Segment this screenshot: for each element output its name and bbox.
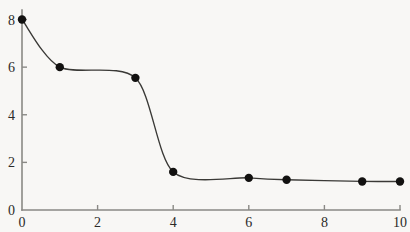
y-tick-label: 0 [8, 203, 15, 218]
data-point [169, 168, 177, 176]
x-tick-label: 0 [19, 215, 26, 230]
x-tick-label: 2 [94, 215, 101, 230]
data-point [18, 15, 26, 23]
line-chart: 02468 0246810 [0, 0, 410, 232]
data-point [131, 74, 139, 82]
y-tick-label: 6 [8, 60, 15, 75]
x-tick-label: 6 [245, 215, 252, 230]
y-tick-label: 8 [8, 13, 15, 28]
x-tick-label: 4 [170, 215, 177, 230]
chart-background [0, 0, 410, 232]
data-point [56, 63, 64, 71]
chart-container: 02468 0246810 [0, 0, 410, 232]
data-point [245, 174, 253, 182]
data-point [282, 176, 290, 184]
data-point [358, 177, 366, 185]
y-tick-label: 2 [8, 155, 15, 170]
x-tick-label: 10 [393, 215, 407, 230]
data-point [396, 177, 404, 185]
y-tick-label: 4 [8, 108, 15, 123]
x-tick-label: 8 [321, 215, 328, 230]
